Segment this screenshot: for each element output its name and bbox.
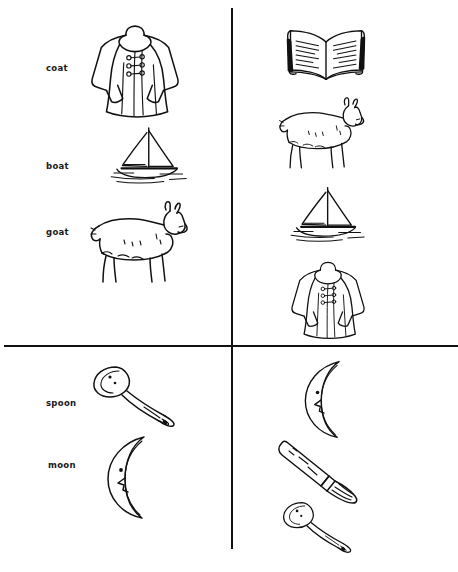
open-book-icon bbox=[283, 26, 369, 84]
picture-label-spoon: spoon bbox=[46, 398, 76, 408]
picture-label-boat: boat bbox=[46, 161, 69, 171]
picture-label-moon: moon bbox=[48, 460, 76, 470]
vertical-divider bbox=[231, 8, 233, 549]
coat-icon bbox=[281, 259, 375, 341]
coat-icon bbox=[84, 22, 186, 120]
spoon-icon bbox=[277, 495, 359, 557]
sailboat-icon bbox=[282, 185, 366, 247]
horizontal-divider bbox=[4, 345, 458, 347]
spoon-icon bbox=[86, 362, 184, 428]
crescent-moon-icon bbox=[296, 356, 354, 442]
picture-label-goat: goat bbox=[46, 227, 69, 237]
sailboat-icon bbox=[101, 126, 189, 188]
worksheet-page: coatboatgoatspoonmoon bbox=[0, 0, 458, 572]
goat-icon bbox=[80, 196, 190, 286]
picture-label-coat: coat bbox=[46, 63, 68, 73]
goat-icon bbox=[270, 92, 366, 172]
crescent-moon-icon bbox=[98, 432, 160, 522]
